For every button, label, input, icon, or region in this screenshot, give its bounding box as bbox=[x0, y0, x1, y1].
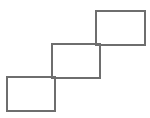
shape-top-right-square bbox=[96, 11, 145, 45]
shape-bottom-left-square bbox=[7, 77, 55, 111]
figure-canvas bbox=[0, 0, 150, 118]
shape-middle-square bbox=[52, 44, 100, 78]
staircase-squares-figure bbox=[0, 0, 150, 118]
